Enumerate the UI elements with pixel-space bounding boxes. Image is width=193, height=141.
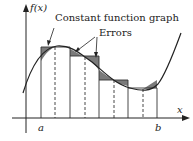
y-axis-label: f(x) <box>30 2 47 13</box>
b-label: b <box>155 122 161 133</box>
callout-constant-function: Constant function graph <box>55 12 179 23</box>
axes <box>12 4 190 133</box>
function-curve <box>23 33 181 93</box>
x-axis-label: x <box>177 104 183 115</box>
constant-rectangles <box>41 47 157 118</box>
a-label: a <box>38 122 44 133</box>
callout-errors: Errors <box>99 27 132 38</box>
